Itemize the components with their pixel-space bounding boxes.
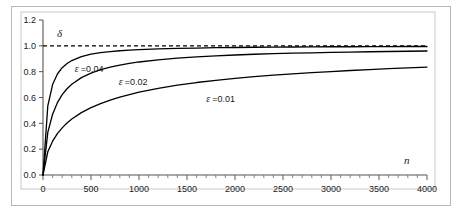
curve-label-epsilon-icon: ε (206, 93, 210, 104)
y-tick-label: 0.2 (23, 144, 36, 154)
y-tick-label: 0.8 (23, 67, 36, 77)
x-tick-label: 4000 (417, 184, 437, 194)
x-tick-label: 3500 (369, 184, 389, 194)
curve-label-1: ε=0.04 (75, 63, 104, 74)
x-tick-label: 0 (40, 184, 45, 194)
x-tick-label: 1500 (177, 184, 197, 194)
curve-3 (43, 67, 427, 175)
y-tick-label: 0.6 (23, 93, 36, 103)
x-tick-label: 2500 (273, 184, 293, 194)
curve-label-3: ε=0.01 (206, 93, 235, 104)
curve-label-epsilon-icon: ε (75, 63, 79, 74)
curve-label-text: =0.04 (81, 64, 104, 74)
y-tick-label: 0.4 (23, 119, 36, 129)
curve-label-2: ε=0.02 (119, 76, 148, 87)
figure-container: 0.00.20.40.60.81.01.20500100015002000250… (0, 0, 462, 214)
y-tick-label: 1.0 (23, 41, 36, 51)
x-tick-label: 500 (83, 184, 98, 194)
y-tick-label: 0.0 (23, 170, 36, 180)
x-tick-label: 1000 (129, 184, 149, 194)
curve-label-epsilon-icon: ε (119, 76, 123, 87)
curve-label-text: =0.01 (212, 94, 235, 104)
y-tick-label: 1.2 (23, 15, 36, 25)
chart-plot: 0.00.20.40.60.81.01.20500100015002000250… (0, 0, 462, 214)
x-tick-label: 3000 (321, 184, 341, 194)
x-tick-label: 2000 (225, 184, 245, 194)
curve-label-text: =0.02 (125, 77, 148, 87)
x-axis-title: n (404, 154, 410, 166)
y-axis-title: δ (57, 27, 63, 39)
